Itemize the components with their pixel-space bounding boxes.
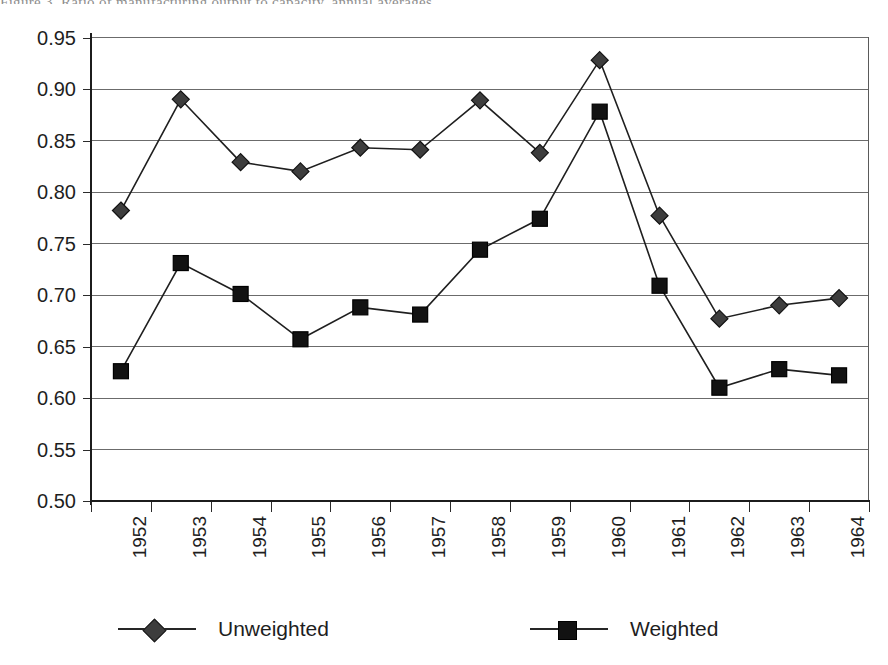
gridline [91,37,869,38]
legend-label: Unweighted [218,617,329,641]
caption-remnant: Figure 3. Ratio of manufacturing output … [0,0,888,4]
x-axis-tick-label: 1963 [788,516,807,586]
y-axis-tick-label: 0.60 [0,388,76,408]
y-axis-tick-label: 0.85 [0,131,76,151]
y-axis-tick-label: 0.80 [0,182,76,202]
x-axis-tick-label: 1961 [669,516,688,586]
chart-figure: Figure 3. Ratio of manufacturing output … [0,0,888,665]
y-axis-tick-label: 0.55 [0,440,76,460]
legend-swatch [530,617,608,641]
gridline [91,140,869,141]
legend-entry-weighted[interactable]: Weighted [530,612,718,646]
x-axis-tick [510,502,511,512]
plot-area [91,37,869,501]
gridline [91,346,869,347]
x-axis-tick [689,502,690,512]
y-axis-tick-label: 0.95 [0,28,76,48]
x-axis-tick [330,502,331,512]
plot-right-border [868,37,869,501]
x-axis-tick-label: 1964 [848,516,867,586]
x-axis-tick-label: 1960 [609,516,628,586]
y-axis-line [90,33,92,505]
y-axis-tick-label: 0.50 [0,491,76,511]
y-axis-tick-label: 0.65 [0,337,76,357]
x-axis-tick-label: 1954 [250,516,269,586]
x-axis-tick [271,502,272,512]
gridline [91,398,869,399]
x-axis-tick-label: 1955 [309,516,328,586]
x-axis-tick [749,502,750,512]
legend-marker-diamond-icon [142,618,166,642]
y-axis-tick-label: 0.70 [0,285,76,305]
x-axis-tick-label: 1953 [190,516,209,586]
gridline [91,243,869,244]
legend-swatch [118,617,196,641]
gridline [91,192,869,193]
x-axis-tick [211,502,212,512]
y-axis-tick-label: 0.90 [0,79,76,99]
x-axis-tick [630,502,631,512]
legend-entry-unweighted[interactable]: Unweighted [118,612,329,646]
x-axis-tick [390,502,391,512]
x-axis-tick-label: 1952 [130,516,149,586]
x-axis-tick-label: 1956 [369,516,388,586]
legend-label: Weighted [630,617,718,641]
legend-marker-square-icon [558,621,577,640]
x-axis-tick [809,502,810,512]
x-axis-tick [151,502,152,512]
x-axis-tick-label: 1959 [549,516,568,586]
x-axis-tick-label: 1958 [489,516,508,586]
x-axis-tick-label: 1962 [728,516,747,586]
gridline [91,449,869,450]
x-axis-tick [450,502,451,512]
y-axis-tick-label: 0.75 [0,234,76,254]
x-axis-tick [91,502,92,512]
x-axis-tick-label: 1957 [429,516,448,586]
x-axis-line [90,500,870,502]
x-axis-tick [869,502,870,512]
gridline [91,89,869,90]
x-axis-tick [570,502,571,512]
chart-legend: UnweightedWeighted [0,612,888,652]
gridline [91,295,869,296]
